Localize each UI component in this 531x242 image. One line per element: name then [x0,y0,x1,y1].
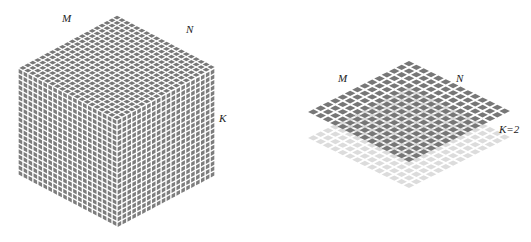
grid-cell [108,207,112,213]
grid-cell [123,84,130,88]
grid-cell [176,163,180,169]
grid-cell [89,29,96,33]
grid-cell [455,87,466,92]
grid-cell [104,68,111,72]
grid-cell [152,154,156,160]
grid-cell [34,168,38,174]
grid-cell [186,136,190,142]
grid-cell [142,197,146,203]
grid-cell [98,191,102,197]
grid-cell [83,205,87,211]
grid-cell [440,116,451,121]
grid-cell [53,119,57,125]
grid-cell [73,183,77,189]
grid-cell [152,111,156,117]
grid-cell [374,105,385,110]
grid-cell [207,65,214,69]
grid-cell [206,153,210,159]
grid-cell [69,66,76,70]
grid-cell [83,140,87,146]
grid-cell [108,137,112,143]
grid-cell [172,149,176,155]
grid-cell [19,149,23,155]
grid-cell [43,141,47,147]
grid-cell [108,175,112,181]
grid-cell [167,157,171,163]
grid-cell [162,138,166,144]
grid-cell [34,179,38,185]
grid-cell [492,112,503,117]
grid-cell [88,154,92,160]
grid-cell [374,83,385,88]
grid-cell [24,125,28,131]
grid-cell [426,87,437,92]
grid-cell [345,113,356,118]
grid-cell [123,31,130,35]
grid-cell [352,94,363,99]
grid-cell [19,69,23,75]
grid-cell [88,186,92,192]
grid-cell [103,145,107,151]
grid-cell [73,189,77,195]
grid-cell [84,32,91,36]
grid-cell [88,175,92,181]
grid-cell [337,124,348,129]
grid-cell [470,123,481,128]
grid-cell [191,150,195,156]
grid-cell [172,182,176,188]
grid-cell [211,102,215,108]
grid-cell [103,135,107,141]
grid-cell [123,100,130,104]
grid-cell [173,63,180,67]
grid-cell [63,98,67,104]
grid-cell [58,154,62,160]
grid-cell [206,99,210,105]
grid-cell [38,80,42,86]
grid-cell [78,122,82,128]
grid-cell [118,173,122,179]
grid-cell [89,50,96,54]
grid-cell [168,86,175,90]
grid-cell [98,143,102,149]
grid-cell [382,87,393,92]
grid-cell [426,146,437,151]
grid-cell [463,127,474,132]
grid-cell [63,183,67,189]
grid-cell [455,149,466,154]
grid-cell [83,151,87,157]
grid-cell [418,68,429,73]
grid-cell [142,192,146,198]
grid-cell [79,71,86,75]
grid-cell [24,152,28,158]
grid-cell [69,40,76,44]
grid-cell [88,143,92,149]
grid-cell [123,213,127,219]
grid-cell [315,106,326,111]
grid-cell [367,116,378,121]
grid-cell [24,163,28,169]
grid-cell [19,133,23,139]
grid-cell [38,106,42,112]
grid-cell [103,188,107,194]
grid-cell [186,82,190,88]
grid-cell [127,119,131,125]
grid-cell [84,95,91,99]
grid-cell [137,108,141,114]
grid-cell [315,132,326,137]
grid-cell [118,140,122,146]
grid-cell [88,116,92,122]
grid-cell [147,179,151,185]
grid-cell [167,114,171,120]
grid-cell [79,87,86,91]
grid-cell [118,55,125,59]
grid-cell [113,58,120,62]
grid-cell [132,170,136,176]
grid-cell [104,37,111,41]
grid-cell [168,71,175,75]
grid-cell [172,101,176,107]
grid-cell [157,157,161,163]
grid-cell [196,82,200,88]
grid-cell [142,143,146,149]
grid-cell [147,157,151,163]
grid-cell [29,74,33,80]
